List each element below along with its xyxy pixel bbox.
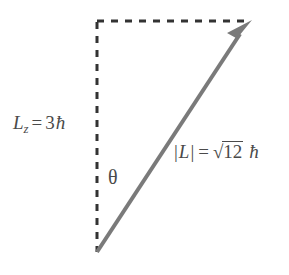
lz-equals: = <box>29 112 46 133</box>
lz-subscript: z <box>24 121 29 136</box>
lz-unit: ħ <box>55 112 66 133</box>
lz-value: 3 <box>45 112 55 133</box>
label-theta: θ <box>108 167 118 187</box>
label-lz: Lz=3ħ <box>13 113 65 136</box>
label-magnitude: |L|=√12ħ <box>173 141 259 161</box>
magnitude-symbol: L <box>179 141 190 162</box>
vector-arrowhead <box>227 20 252 47</box>
diagram-canvas <box>0 0 289 275</box>
radicand: 12 <box>222 141 243 161</box>
angular-momentum-diagram: Lz=3ħ |L|=√12ħ θ <box>0 0 289 275</box>
magnitude-radical: √12 <box>212 141 243 161</box>
magnitude-unit: ħ <box>248 141 259 162</box>
lz-symbol: L <box>13 112 24 133</box>
magnitude-equals: = <box>195 141 212 162</box>
